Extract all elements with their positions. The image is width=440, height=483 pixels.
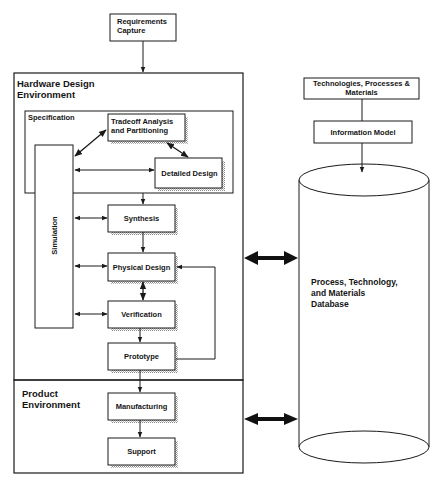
thick-arrow-pe-db bbox=[244, 413, 298, 425]
db-line2: and Materials bbox=[311, 288, 398, 299]
tech-line2: Materials bbox=[304, 88, 419, 97]
tradeoff-line1: Tradeoff Analysis bbox=[111, 117, 173, 126]
detailed-design-label: Detailed Design bbox=[157, 158, 222, 188]
database-label: Process, Technology, and Materials Datab… bbox=[311, 277, 398, 310]
db-line1: Process, Technology, bbox=[311, 277, 398, 288]
physical-design-label: Physical Design bbox=[108, 253, 175, 281]
db-line3: Database bbox=[311, 299, 398, 310]
requirements-capture-label: Requirements Capture bbox=[117, 17, 175, 35]
req-line2: Capture bbox=[117, 26, 175, 35]
simulation-label: Simulation bbox=[50, 206, 59, 266]
req-line1: Requirements bbox=[117, 17, 175, 26]
manufacturing-label: Manufacturing bbox=[108, 393, 175, 420]
edge-tradeoff-simulation bbox=[75, 130, 106, 156]
hardware-env-title: Hardware Design Environment bbox=[17, 78, 95, 100]
pe-title-line1: Product bbox=[22, 388, 80, 399]
thick-arrow-hde-db bbox=[244, 251, 298, 265]
edge-prototype-feedback bbox=[176, 267, 215, 359]
specification-title: Specification bbox=[28, 113, 75, 122]
product-env-title: Product Environment bbox=[22, 388, 80, 410]
tradeoff-label: Tradeoff Analysis and Partitioning bbox=[111, 117, 173, 135]
verification-label: Verification bbox=[108, 301, 175, 328]
database-cylinder bbox=[299, 164, 429, 463]
pe-title-line2: Environment bbox=[22, 399, 80, 410]
hde-title-line1: Hardware Design bbox=[17, 78, 95, 89]
hde-title-line2: Environment bbox=[17, 89, 95, 100]
edge-tradeoff-detailed bbox=[167, 143, 188, 157]
tech-processes-label: Technologies, Processes & Materials bbox=[304, 79, 419, 97]
synthesis-label: Synthesis bbox=[108, 205, 175, 232]
support-label: Support bbox=[108, 438, 175, 465]
diagram-canvas bbox=[0, 0, 440, 483]
tradeoff-line2: and Partitioning bbox=[111, 126, 173, 135]
prototype-label: Prototype bbox=[108, 343, 175, 370]
information-model-label: Information Model bbox=[314, 121, 412, 143]
tech-line1: Technologies, Processes & bbox=[304, 79, 419, 88]
